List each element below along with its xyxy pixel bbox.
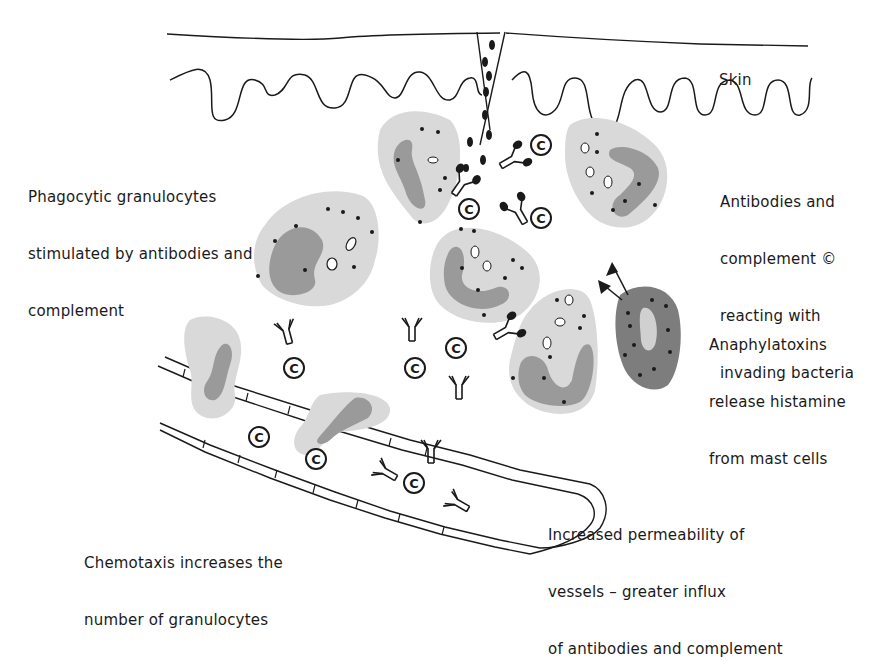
skin-wound xyxy=(463,32,505,172)
chemotaxis-line-2: number of granulocytes xyxy=(84,611,283,630)
phagocytic-label: Phagocytic granulocytes stimulated by an… xyxy=(28,150,253,340)
granulocyte xyxy=(565,118,667,228)
chemotaxis-line-1: Chemotaxis increases the xyxy=(84,554,283,573)
permeability-label: Increased permeability of vessels – grea… xyxy=(548,488,783,661)
phagocytic-line-3: complement xyxy=(28,302,253,321)
phagocytic-line-2: stimulated by antibodies and xyxy=(28,245,253,264)
bacteria xyxy=(463,40,495,172)
granulocyte xyxy=(430,227,540,323)
chemotaxis-label: Chemotaxis increases the number of granu… xyxy=(84,516,283,649)
anaphylatoxins-line-2: release histamine xyxy=(709,393,846,412)
anaphylatoxins-line-1: Anaphylatoxins xyxy=(709,336,846,355)
permeability-line-3: of antibodies and complement xyxy=(548,640,783,659)
granulocyte xyxy=(378,111,460,224)
skin-label-text: Skin xyxy=(719,71,752,89)
antibodies-line-1: Antibodies and xyxy=(720,193,854,212)
phagocytic-line-1: Phagocytic granulocytes xyxy=(28,188,253,207)
anaphylatoxins-label: Anaphylatoxins release histamine from ma… xyxy=(709,298,846,488)
antibodies-line-2: complement © xyxy=(720,250,854,269)
permeability-line-1: Increased permeability of xyxy=(548,526,783,545)
skin-label: Skin xyxy=(709,52,752,90)
granulocyte xyxy=(254,191,379,306)
permeability-line-2: vessels – greater influx xyxy=(548,583,783,602)
anaphylatoxins-line-3: from mast cells xyxy=(709,450,846,469)
mast-cell xyxy=(598,262,681,390)
